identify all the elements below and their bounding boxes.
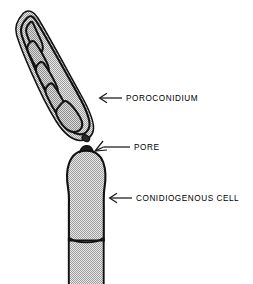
label-pore: PORE (95, 141, 159, 152)
label-conidiogenous-cell: CONIDIOGENOUS CELL (110, 193, 240, 203)
label-poroconidium: POROCONIDIUM (100, 93, 199, 103)
arrow-to-poroconidium (100, 93, 122, 103)
conidiogenous-cell (67, 151, 105, 243)
diagram-canvas: POROCONIDIUM PORE CONIDIOGENOUS CELL (0, 0, 253, 284)
poroconidium (16, 11, 94, 143)
arrow-to-conidiogenous-cell (110, 193, 132, 203)
supporting-hypha (69, 238, 105, 284)
label-text-pore: PORE (134, 143, 159, 152)
arrow-to-pore (95, 141, 130, 151)
conidiogenous-cell-body (67, 151, 105, 241)
hypha-body (69, 238, 105, 284)
diagram-svg: POROCONIDIUM PORE CONIDIOGENOUS CELL (0, 0, 253, 284)
label-text-poroconidium: POROCONIDIUM (126, 94, 198, 103)
label-text-conidiogenous-cell: CONIDIOGENOUS CELL (136, 194, 239, 203)
